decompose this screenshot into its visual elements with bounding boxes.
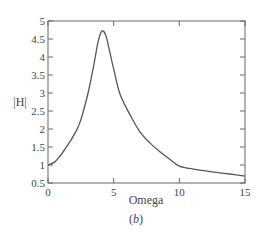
y-tick-label: 4 — [40, 51, 46, 63]
x-axis-ticks: 051015 — [45, 21, 251, 198]
x-tick-label: 5 — [111, 186, 117, 198]
x-tick-label: 10 — [174, 186, 186, 198]
y-tick-label: 0.5 — [31, 177, 45, 189]
y-tick-label: 4.5 — [31, 33, 45, 45]
x-tick-label: 0 — [45, 186, 51, 198]
x-axis-label: Omega — [129, 193, 164, 207]
y-tick-label: 3 — [40, 87, 46, 99]
y-axis-ticks: 0.511.522.533.544.55 — [31, 15, 245, 189]
magnitude-curve — [48, 31, 245, 176]
y-tick-label: 5 — [40, 15, 46, 27]
y-tick-label: 1.5 — [31, 141, 45, 153]
y-tick-label: 1 — [40, 159, 46, 171]
figure-caption: (b) — [129, 212, 143, 226]
y-tick-label: 2 — [40, 123, 46, 135]
plot-frame — [48, 21, 245, 183]
y-tick-label: 2.5 — [31, 105, 45, 117]
y-axis-label: |H| — [13, 95, 26, 109]
x-tick-label: 15 — [240, 186, 252, 198]
plot-border — [48, 21, 245, 183]
y-tick-label: 3.5 — [31, 69, 45, 81]
frequency-response-chart: 0.511.522.533.544.55 051015 |H| Omega (b… — [0, 0, 262, 237]
